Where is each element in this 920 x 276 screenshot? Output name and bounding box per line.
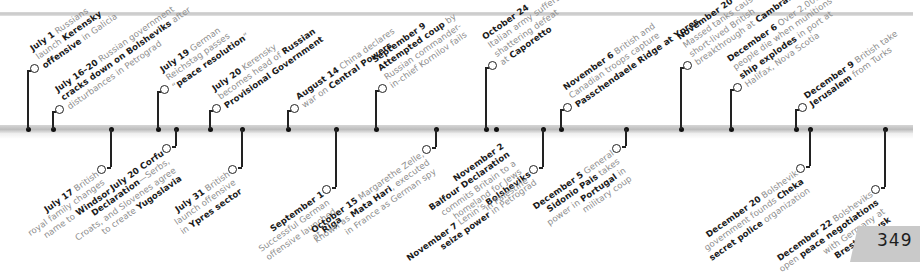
event-stem bbox=[809, 129, 811, 166]
event-ring-icon bbox=[422, 145, 431, 154]
event-ring-icon bbox=[160, 85, 169, 94]
event-ring-icon bbox=[563, 103, 572, 112]
event-ring-icon bbox=[796, 164, 805, 173]
event-label: September 9Attempted coup byRussian comm… bbox=[370, 3, 470, 91]
event-stem bbox=[157, 91, 159, 129]
event-ring-icon bbox=[30, 64, 39, 73]
event-stem-jog bbox=[539, 167, 543, 169]
event-stem-jog bbox=[238, 167, 242, 169]
event-stem bbox=[435, 129, 437, 147]
event-ring-icon bbox=[228, 165, 237, 174]
event-ring-icon bbox=[612, 144, 621, 153]
event-stem bbox=[287, 110, 289, 129]
event-stem bbox=[52, 111, 54, 129]
event-stem bbox=[241, 129, 243, 167]
event-stem-jog bbox=[622, 146, 626, 148]
event-ring-icon bbox=[322, 185, 331, 194]
event-stem-jog bbox=[881, 187, 885, 189]
timeline-band-shadow bbox=[0, 133, 913, 139]
event-stem bbox=[625, 129, 627, 146]
event-stem bbox=[730, 89, 732, 129]
event-label-line: Jerusalem from Turks bbox=[808, 37, 906, 110]
event-ring-icon bbox=[290, 104, 299, 113]
event-stem-jog bbox=[107, 167, 111, 169]
event-stem bbox=[680, 67, 682, 129]
event-stem-jog bbox=[172, 146, 176, 148]
event-ring-icon bbox=[683, 61, 692, 70]
event-stem-jog bbox=[432, 147, 436, 149]
event-label-line: Canadian troops capture bbox=[567, 7, 695, 101]
event-ring-icon bbox=[378, 84, 387, 93]
event-stem bbox=[375, 90, 377, 129]
event-stem-jog bbox=[806, 166, 810, 168]
event-stem-jog bbox=[332, 187, 336, 189]
event-ring-icon bbox=[97, 165, 106, 174]
event-stem bbox=[560, 109, 562, 129]
page-number: 349 bbox=[877, 230, 912, 250]
event-label-text: Canadian troops capture bbox=[567, 30, 661, 100]
event-stem bbox=[27, 70, 29, 129]
event-stem bbox=[485, 67, 487, 129]
event-ring-icon bbox=[212, 104, 221, 113]
event-ring-icon bbox=[488, 61, 497, 70]
event-ring-icon bbox=[55, 105, 64, 114]
event-stem bbox=[335, 129, 337, 187]
event-stem bbox=[110, 129, 112, 167]
timeline-band bbox=[0, 125, 913, 133]
event-stem bbox=[175, 129, 177, 146]
event-label: October 24Italian army suffersshattering… bbox=[480, 0, 574, 68]
event-ring-icon bbox=[733, 83, 742, 92]
event-ring-icon bbox=[871, 185, 880, 194]
event-ring-icon bbox=[529, 165, 538, 174]
event-ring-icon bbox=[162, 144, 171, 153]
event-stem bbox=[542, 129, 544, 167]
event-stem bbox=[795, 109, 797, 129]
event-stem bbox=[209, 110, 211, 129]
event-ring-icon bbox=[798, 103, 807, 112]
timeline-dot bbox=[494, 127, 499, 132]
event-stem bbox=[884, 129, 886, 187]
